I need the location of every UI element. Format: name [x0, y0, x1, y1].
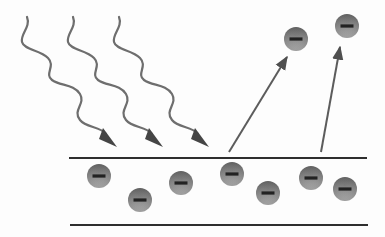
minus-sign-icon — [175, 181, 188, 184]
minus-sign-icon — [341, 24, 354, 27]
diagram-canvas — [0, 0, 385, 237]
electron-in-metal — [256, 181, 280, 205]
electron-in-metal — [128, 188, 152, 212]
ejection-arrow-2 — [321, 47, 340, 152]
ejection-arrow-1 — [229, 57, 287, 152]
electron-in-metal — [220, 162, 244, 186]
photoelectric-diagram — [0, 0, 385, 237]
electron-in-metal — [299, 166, 323, 190]
minus-sign-icon — [226, 172, 239, 175]
incoming-light-waves — [22, 17, 209, 147]
electron-in-metal — [333, 177, 357, 201]
light-wave-3 — [114, 17, 209, 147]
minus-sign-icon — [93, 174, 106, 177]
minus-sign-icon — [290, 37, 303, 40]
minus-sign-icon — [305, 176, 318, 179]
ejection-arrows — [229, 47, 340, 152]
minus-sign-icon — [339, 187, 352, 190]
ejected-electron — [284, 27, 308, 51]
minus-sign-icon — [134, 198, 147, 201]
electrons — [87, 14, 359, 212]
electron-in-metal — [87, 164, 111, 188]
minus-sign-icon — [262, 191, 275, 194]
ejected-electron — [335, 14, 359, 38]
electron-in-metal — [169, 171, 193, 195]
